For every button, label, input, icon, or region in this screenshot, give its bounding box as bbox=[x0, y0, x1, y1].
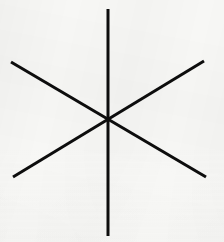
figure-canvas bbox=[0, 0, 224, 242]
asterisk-line-drawing bbox=[0, 0, 224, 242]
